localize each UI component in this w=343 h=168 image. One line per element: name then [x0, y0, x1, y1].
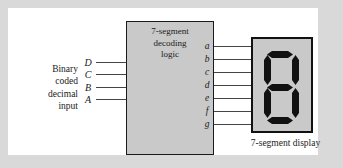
- segment-a: [267, 51, 293, 58]
- output-wire-a: [214, 46, 251, 47]
- segment-b: [292, 55, 299, 85]
- output-wire-c: [214, 72, 251, 73]
- output-label-d: d: [202, 80, 212, 90]
- input-description-line-3: decimal: [22, 88, 78, 100]
- input-wire-a: [96, 99, 126, 100]
- input-label-a: A: [82, 94, 94, 105]
- figure-root: Binary coded decimal input D C B A 7-seg…: [0, 0, 343, 168]
- seven-segment-display: [251, 37, 313, 133]
- input-wire-b: [96, 87, 126, 88]
- output-wire-e: [214, 98, 251, 99]
- decoder-title-line-3: logic: [126, 49, 214, 61]
- output-label-g: g: [202, 119, 212, 129]
- input-wire-d: [96, 62, 126, 63]
- output-label-b: b: [202, 54, 212, 64]
- output-label-a: a: [202, 41, 212, 51]
- figure-canvas: Binary coded decimal input D C B A 7-seg…: [8, 8, 318, 155]
- input-description: Binary coded decimal input: [22, 63, 78, 113]
- input-label-b: B: [82, 82, 94, 93]
- input-description-line-2: coded: [22, 75, 78, 87]
- segment-f: [264, 55, 271, 85]
- output-label-c: c: [202, 67, 212, 77]
- output-label-f: f: [202, 106, 212, 116]
- input-label-d: D: [82, 57, 94, 68]
- segment-e: [264, 88, 271, 118]
- output-label-e: e: [202, 93, 212, 103]
- segment-c: [292, 88, 299, 118]
- output-wire-g: [214, 124, 251, 125]
- input-wire-c: [96, 74, 126, 75]
- input-description-line-1: Binary: [22, 63, 78, 75]
- segment-d: [267, 117, 293, 124]
- output-wire-d: [214, 85, 251, 86]
- decoder-title-line-1: 7-segment: [126, 26, 214, 38]
- input-description-line-4: input: [22, 100, 78, 112]
- decoder-block-title: 7-segment decoding logic: [126, 26, 214, 61]
- segment-g: [267, 84, 293, 91]
- output-wire-b: [214, 59, 251, 60]
- display-caption: 7-segment display: [229, 138, 342, 148]
- decoder-title-line-2: decoding: [126, 38, 214, 50]
- output-wire-f: [214, 111, 251, 112]
- input-label-c: C: [82, 69, 94, 80]
